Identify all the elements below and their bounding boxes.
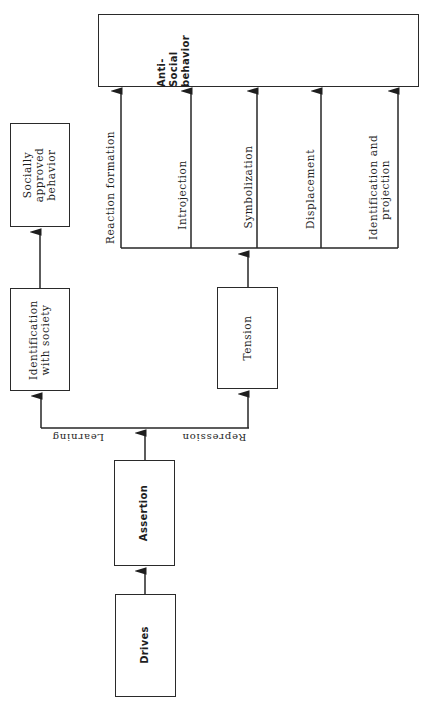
socially-approved-behavior-label: Socially approved behavior xyxy=(21,140,59,210)
tension-text: Tension xyxy=(241,315,253,360)
mechanism-reaction-formation: Reaction formation xyxy=(104,134,118,244)
anti-social-line3: behavior xyxy=(180,27,192,87)
anti-social-line2: Social xyxy=(168,27,180,87)
drives-text: Drives xyxy=(139,626,150,664)
anti-social-line1: Anti- xyxy=(156,27,168,87)
identification-with-society-label: Identification with society xyxy=(27,295,53,385)
displacement-label: Displacement xyxy=(304,149,316,229)
reaction-formation-label: Reaction formation xyxy=(104,131,116,244)
introjection-label: Introjection xyxy=(176,160,188,230)
tension-label: Tension xyxy=(241,308,255,368)
anti-social-behavior-label: Anti- Social behavior xyxy=(156,27,194,87)
socially-line3: behavior xyxy=(45,140,57,210)
anti-social-behavior-box xyxy=(98,14,419,87)
drives-label: Drives xyxy=(139,615,153,676)
identification-and-label: Identification and xyxy=(367,140,379,240)
socially-line1: Socially xyxy=(21,140,33,210)
mechanism-displacement: Displacement xyxy=(304,151,318,229)
projection-label: projection xyxy=(379,140,391,240)
mechanism-symbolization: Symbolization xyxy=(242,145,256,229)
mechanism-identification-and-projection: Identification and projection xyxy=(367,140,393,240)
assertion-text: Assertion xyxy=(138,485,149,541)
learning-label: Learning xyxy=(50,432,106,443)
assertion-label: Assertion xyxy=(138,483,152,544)
identification-line2: with society xyxy=(39,295,51,385)
identification-line1: Identification xyxy=(27,295,39,385)
mechanism-introjection: Introjection xyxy=(176,160,190,230)
socially-line2: approved xyxy=(33,140,45,210)
repression-label: Repression xyxy=(180,432,248,443)
symbolization-label: Symbolization xyxy=(242,145,254,228)
